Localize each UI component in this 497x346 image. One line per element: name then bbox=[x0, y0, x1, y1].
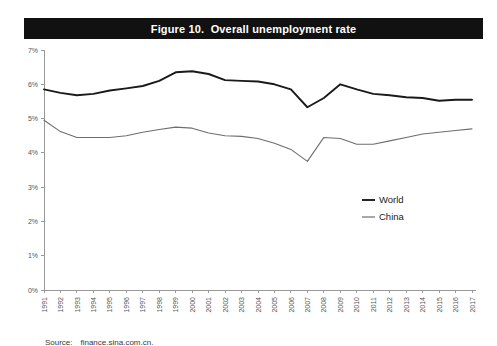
y-axis-tick-label: 4% bbox=[28, 149, 38, 156]
figure-container: Figure 10. Overall unemployment rate 0%1… bbox=[0, 0, 497, 346]
x-axis-tick-label: 2004 bbox=[255, 297, 262, 313]
x-axis-tick-label: 2002 bbox=[222, 297, 229, 313]
x-axis-tick-label: 2008 bbox=[320, 297, 327, 313]
y-axis-tick-label: 3% bbox=[28, 184, 38, 191]
series-line-world bbox=[44, 71, 472, 107]
source-note: Source:finance.sina.com.cn. bbox=[36, 329, 153, 346]
x-axis-tick-label: 1998 bbox=[156, 297, 163, 313]
series-lines bbox=[44, 71, 472, 161]
chart-legend: WorldChina bbox=[362, 194, 405, 222]
x-axis-tick-label: 2007 bbox=[304, 297, 311, 313]
y-axis-tick-label: 1% bbox=[28, 252, 38, 259]
x-axis-tick-label: 2017 bbox=[469, 297, 476, 313]
x-axis-tick-label: 2013 bbox=[403, 297, 410, 313]
x-axis-tick-label: 1999 bbox=[172, 297, 179, 313]
x-axis: 1991199219931994199519961997199819992000… bbox=[41, 290, 476, 313]
x-axis-tick-label: 2005 bbox=[271, 297, 278, 313]
legend-label-world: World bbox=[379, 194, 404, 205]
x-axis-tick-label: 2010 bbox=[353, 297, 360, 313]
y-axis: 0%1%2%3%4%5%6%7% bbox=[28, 47, 44, 294]
y-axis-tick-label: 5% bbox=[28, 115, 38, 122]
source-label: Source: bbox=[45, 338, 73, 346]
x-axis-tick-label: 1991 bbox=[41, 297, 48, 313]
x-axis-tick-label: 1995 bbox=[106, 297, 113, 313]
x-axis-tick-label: 2015 bbox=[436, 297, 443, 313]
y-axis-tick-label: 7% bbox=[28, 47, 38, 54]
x-axis-tick-label: 2012 bbox=[386, 297, 393, 313]
source-value: finance.sina.com.cn. bbox=[80, 338, 153, 346]
x-axis-tick-label: 1992 bbox=[57, 297, 64, 313]
y-axis-tick-label: 6% bbox=[28, 81, 38, 88]
y-axis-tick-label: 0% bbox=[28, 287, 38, 294]
x-axis-tick-label: 2011 bbox=[370, 297, 377, 312]
chart-plot-area: 0%1%2%3%4%5%6%7% 19911992199319941995199… bbox=[0, 0, 497, 346]
x-axis-tick-label: 2000 bbox=[189, 297, 196, 313]
legend-label-china: China bbox=[379, 211, 405, 222]
x-axis-tick-label: 2001 bbox=[205, 297, 212, 313]
x-axis-tick-label: 2014 bbox=[419, 297, 426, 313]
unemployment-line-chart: 0%1%2%3%4%5%6%7% 19911992199319941995199… bbox=[0, 0, 497, 346]
x-axis-tick-label: 1994 bbox=[90, 297, 97, 313]
series-line-china bbox=[44, 120, 472, 161]
x-axis-tick-label: 2006 bbox=[288, 297, 295, 313]
x-axis-tick-label: 1993 bbox=[74, 297, 81, 313]
x-axis-tick-label: 2016 bbox=[452, 297, 459, 313]
x-axis-tick-label: 2009 bbox=[337, 297, 344, 313]
x-axis-tick-label: 1997 bbox=[139, 297, 146, 313]
y-axis-tick-label: 2% bbox=[28, 218, 38, 225]
x-axis-tick-label: 1996 bbox=[123, 297, 130, 313]
x-axis-tick-label: 2003 bbox=[238, 297, 245, 313]
